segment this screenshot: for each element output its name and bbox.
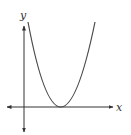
x-axis-label: x: [116, 101, 123, 114]
y-axis-label: y: [19, 9, 27, 22]
parabola-diagram: y x: [0, 0, 131, 135]
parabola-curve: [28, 22, 95, 107]
